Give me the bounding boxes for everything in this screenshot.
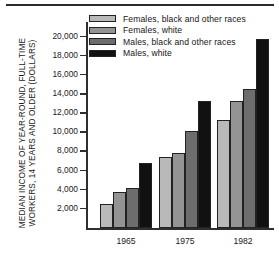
y-axis-tick-label: 10,000 <box>52 126 78 136</box>
top-divider-rule <box>6 4 274 6</box>
bar[interactable] <box>172 153 185 228</box>
y-axis-title-line-1: MEDIAN INCOME OF YEAR-ROUND, FULL-TIME <box>18 38 28 228</box>
y-axis-tick-mark <box>80 131 86 133</box>
bar[interactable] <box>159 157 172 228</box>
legend-label: Males, white <box>123 48 172 58</box>
x-axis-tick-label: 1975 <box>159 236 211 246</box>
y-axis-title: MEDIAN INCOME OF YEAR-ROUND, FULL-TIME W… <box>13 21 43 245</box>
legend-swatch <box>89 38 116 45</box>
y-axis-tick-label: 16,000 <box>52 69 78 79</box>
bar[interactable] <box>243 89 256 228</box>
legend-label: Females, white <box>123 25 182 35</box>
legend-swatch <box>89 15 116 22</box>
y-axis-tick-mark <box>80 208 86 210</box>
y-axis-tick-label: 6,000 <box>57 165 78 175</box>
legend-item[interactable]: Males, black and other races <box>89 36 246 47</box>
x-axis-tick-label: 1965 <box>100 236 152 246</box>
bar[interactable] <box>185 131 198 228</box>
y-axis-tick-label: 18,000 <box>52 50 78 60</box>
legend-label: Females, black and other races <box>123 14 246 24</box>
y-axis-tick-mark <box>80 36 86 38</box>
legend-item[interactable]: Females, white <box>89 25 246 36</box>
y-axis-tick-label: 2,000 <box>57 203 78 213</box>
legend-swatch <box>89 27 116 34</box>
bar[interactable] <box>256 39 269 229</box>
bar[interactable] <box>230 101 243 228</box>
bar[interactable] <box>126 188 139 228</box>
y-axis-tick-mark <box>80 93 86 95</box>
y-axis-tick-label: 14,000 <box>52 88 78 98</box>
y-axis-tick-label: 12,000 <box>52 107 78 117</box>
y-axis-tick-mark <box>80 189 86 191</box>
x-axis-tick-label: 1982 <box>217 236 269 246</box>
y-axis-tick-label: 4,000 <box>57 184 78 194</box>
y-axis-tick-mark <box>80 74 86 76</box>
y-axis-tick-mark <box>80 55 86 57</box>
chart-figure: MEDIAN INCOME OF YEAR-ROUND, FULL-TIME W… <box>0 0 279 261</box>
chart-legend: Females, black and other racesFemales, w… <box>89 13 246 59</box>
legend-label: Males, black and other races <box>123 37 236 47</box>
bar[interactable] <box>198 101 211 228</box>
bar[interactable] <box>113 192 126 228</box>
y-axis-tick-label: 20,000 <box>52 31 78 41</box>
y-axis-title-line-2: WORKERS, 14 YEARS AND OLDER (DOLLARS) <box>28 40 38 227</box>
y-axis-tick-mark <box>80 170 86 172</box>
bar[interactable] <box>100 204 113 228</box>
y-axis-tick-mark <box>80 112 86 114</box>
y-axis-tick-mark <box>80 150 86 152</box>
bar[interactable] <box>217 120 230 228</box>
bar[interactable] <box>139 163 152 228</box>
legend-item[interactable]: Males, white <box>89 48 246 59</box>
x-axis-line <box>86 228 274 230</box>
legend-swatch <box>89 50 116 57</box>
legend-item[interactable]: Females, black and other races <box>89 13 246 24</box>
y-axis-tick-label: 8,000 <box>57 145 78 155</box>
